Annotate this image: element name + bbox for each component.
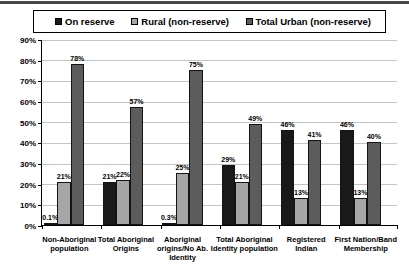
bar-value-label: 0.1%: [42, 214, 58, 222]
bar: [116, 180, 130, 225]
plot-area: 0.1%21%78%21%22%57%0.3%25%75%29%21%49%46…: [41, 40, 397, 226]
bar-with-label: 25%: [176, 164, 190, 225]
y-axis-label: 70%: [0, 77, 36, 86]
top-rule: [0, 1, 409, 4]
bar: [354, 198, 368, 225]
x-axis-tick: [42, 225, 43, 229]
gridline: [42, 40, 397, 41]
bar-value-label: 57%: [130, 98, 144, 106]
bar-value-label: 41%: [308, 131, 322, 139]
bar-value-label: 49%: [248, 115, 262, 123]
bar: [235, 182, 249, 225]
bar-value-label: 40%: [367, 133, 381, 141]
legend-swatch-rural-icon: [131, 18, 138, 25]
y-axis-label: 30%: [0, 160, 36, 169]
y-axis-label: 20%: [0, 181, 36, 190]
legend-item-rural: Rural (non-reserve): [131, 16, 229, 27]
x-axis-label-registered-indian: Registered Indian: [278, 235, 335, 262]
x-axis-label-first-nation-band: First Nation/Band Membership: [335, 235, 398, 262]
bar-value-label: 78%: [70, 55, 84, 63]
bar-value-label: 46%: [340, 121, 354, 129]
bar-with-label: 0.3%: [162, 214, 176, 225]
bar-with-label: 57%: [130, 98, 144, 225]
bar-group: 0.1%21%78%: [44, 55, 85, 225]
bar: [103, 182, 117, 225]
x-axis-tick: [397, 225, 398, 229]
bar-with-label: 21%: [103, 173, 117, 225]
bar: [367, 142, 381, 225]
bar-with-label: 22%: [116, 171, 130, 225]
legend-item-on-reserve: On reserve: [55, 16, 115, 27]
x-axis-tick: [101, 225, 102, 229]
bar: [249, 124, 263, 225]
y-axis-tick: [38, 102, 42, 103]
gridline: [42, 60, 397, 61]
x-axis-label-non-aboriginal-population: Non-Aboriginal population: [41, 235, 98, 262]
y-axis-tick: [38, 143, 42, 144]
bar-value-label: 21%: [235, 173, 249, 181]
bar-with-label: 78%: [71, 55, 85, 225]
x-axis-tick: [161, 225, 162, 229]
bar-group: 46%13%40%: [340, 121, 381, 225]
bar-group: 46%13%41%: [281, 121, 322, 225]
bar-with-label: 21%: [235, 173, 249, 225]
legend-item-total-urban: Total Urban (non-reserve): [246, 16, 371, 27]
bar-with-label: 29%: [222, 156, 236, 225]
x-axis-tick: [220, 225, 221, 229]
y-axis-tick: [38, 61, 42, 62]
legend-label-on-reserve: On reserve: [65, 16, 115, 27]
y-axis-label: 0%: [0, 222, 36, 231]
x-axis-label-aboriginal-origins-no-identity: Aboriginal origins/No Ab. Identity: [154, 235, 211, 262]
legend-label-total-urban: Total Urban (non-reserve): [256, 16, 371, 27]
bar: [222, 165, 236, 225]
bar-value-label: 13%: [294, 189, 308, 197]
figure-chart: On reserve Rural (non-reserve) Total Urb…: [0, 0, 409, 265]
y-axis-tick: [38, 81, 42, 82]
y-axis-tick: [38, 205, 42, 206]
bar-value-label: 46%: [281, 121, 295, 129]
bar: [57, 182, 71, 225]
bar: [281, 130, 295, 225]
bar: [308, 140, 322, 225]
x-axis-labels: Non-Aboriginal population Total Aborigin…: [41, 235, 397, 262]
y-axis-label: 50%: [0, 119, 36, 128]
bar-with-label: 46%: [281, 121, 295, 225]
bar-value-label: 21%: [103, 173, 117, 181]
y-axis-label: 90%: [0, 36, 36, 45]
y-axis-label: 40%: [0, 139, 36, 148]
bar-value-label: 29%: [221, 156, 235, 164]
y-axis-label: 10%: [0, 201, 36, 210]
bar-value-label: 13%: [353, 189, 367, 197]
gridline: [42, 102, 397, 103]
bar-group: 29%21%49%: [222, 115, 263, 225]
bar: [176, 173, 190, 225]
bar: [44, 223, 58, 225]
chart-legend: On reserve Rural (non-reserve) Total Urb…: [33, 10, 386, 33]
y-axis-label: 80%: [0, 57, 36, 66]
x-axis-label-total-aboriginal-identity: Total Aboriginal Identity population: [211, 235, 278, 262]
legend-label-rural: Rural (non-reserve): [141, 16, 229, 27]
y-axis-tick: [38, 123, 42, 124]
bar-with-label: 40%: [367, 133, 381, 225]
bar-value-label: 22%: [116, 171, 130, 179]
bar: [162, 223, 176, 225]
y-axis-label: 60%: [0, 98, 36, 107]
bar-with-label: 46%: [340, 121, 354, 225]
bar-with-label: 75%: [189, 61, 203, 225]
y-axis-tick: [38, 185, 42, 186]
bar-with-label: 13%: [354, 189, 368, 225]
bar: [130, 107, 144, 225]
bar-group: 21%22%57%: [103, 98, 144, 225]
bar: [340, 130, 354, 225]
x-axis-tick: [279, 225, 280, 229]
bar-value-label: 25%: [175, 164, 189, 172]
bar-with-label: 49%: [249, 115, 263, 225]
bar-value-label: 75%: [189, 61, 203, 69]
legend-swatch-total-urban-icon: [246, 18, 253, 25]
bar: [294, 198, 308, 225]
bar-with-label: 21%: [57, 173, 71, 225]
x-axis-label-total-aboriginal-origins: Total Aboriginal Origins: [98, 235, 155, 262]
bar-value-label: 0.3%: [161, 214, 177, 222]
y-axis-tick: [38, 40, 42, 41]
bar: [189, 70, 203, 225]
